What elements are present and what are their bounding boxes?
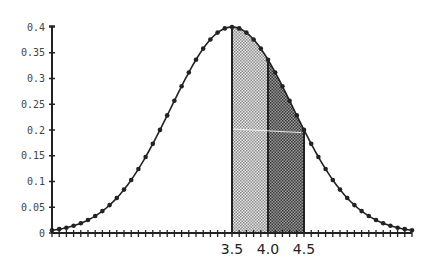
curve-point (352, 203, 357, 208)
curve-point (251, 37, 256, 42)
curve-point (122, 187, 127, 192)
curve-point (381, 221, 386, 226)
y-tick-label: 0.35 (21, 47, 45, 58)
x-tick-label: 3.5 (221, 241, 243, 257)
curve-point (331, 178, 336, 183)
y-tick-label: 0 (39, 228, 45, 239)
y-tick-label: 0.4 (27, 22, 45, 33)
y-tick-label: 0.3 (27, 73, 45, 84)
curve-point (374, 218, 379, 223)
y-tick-label: 0.1 (27, 176, 45, 187)
curve-point (403, 227, 408, 232)
shaded-region-dark (268, 60, 304, 233)
curve-point (316, 155, 321, 160)
curve-point (136, 167, 141, 172)
axes (49, 26, 412, 237)
curve-point (215, 30, 220, 35)
curve-point (187, 70, 192, 75)
y-tick-label: 0.15 (21, 150, 45, 161)
curve-point (266, 57, 271, 62)
curve-point (244, 30, 249, 35)
normal-distribution-chart: 00.050.10.150.20.250.30.350.43.54.04.5 (0, 0, 423, 271)
curve-point (93, 214, 98, 219)
curve-point (129, 178, 134, 183)
curve-point (395, 225, 400, 230)
curve-point (151, 142, 156, 147)
curve-point (280, 84, 285, 89)
curve-point (338, 187, 343, 192)
curve-point (79, 221, 84, 226)
curve-point (367, 214, 372, 219)
curve-point (57, 227, 62, 232)
curve-point (237, 26, 242, 31)
curve-point (100, 209, 105, 214)
curve-point (165, 113, 170, 118)
curve-point (287, 98, 292, 103)
curve-point (107, 203, 112, 208)
curve-point (143, 155, 148, 160)
curve-point (201, 46, 206, 51)
curve-point (410, 228, 415, 233)
x-tick-label: 4.0 (257, 241, 279, 257)
x-tick-label: 4.5 (293, 241, 315, 257)
curve-point (208, 37, 213, 42)
curve-point (50, 228, 55, 233)
curve-point (179, 84, 184, 89)
curve-point (273, 70, 278, 75)
y-tick-label: 0.05 (21, 202, 45, 213)
curve-point (86, 218, 91, 223)
curve-point (345, 196, 350, 201)
curve-point (115, 196, 120, 201)
curve-point (259, 46, 264, 51)
curve-point (71, 223, 76, 228)
curve-point (194, 57, 199, 62)
curve-point (230, 25, 235, 30)
chart-plot-area: 00.050.10.150.20.250.30.350.43.54.04.5 (0, 0, 423, 271)
curve-point (302, 128, 307, 133)
curve-point (223, 26, 228, 31)
y-tick-label: 0.2 (27, 125, 45, 136)
curve-point (172, 98, 177, 103)
curve-point (388, 223, 393, 228)
curve-point (158, 128, 163, 133)
curve-point (359, 209, 364, 214)
y-tick-label: 0.25 (21, 99, 45, 110)
curve-point (295, 113, 300, 118)
curve-point (309, 142, 314, 147)
curve-point (323, 167, 328, 172)
curve-point (64, 225, 69, 230)
